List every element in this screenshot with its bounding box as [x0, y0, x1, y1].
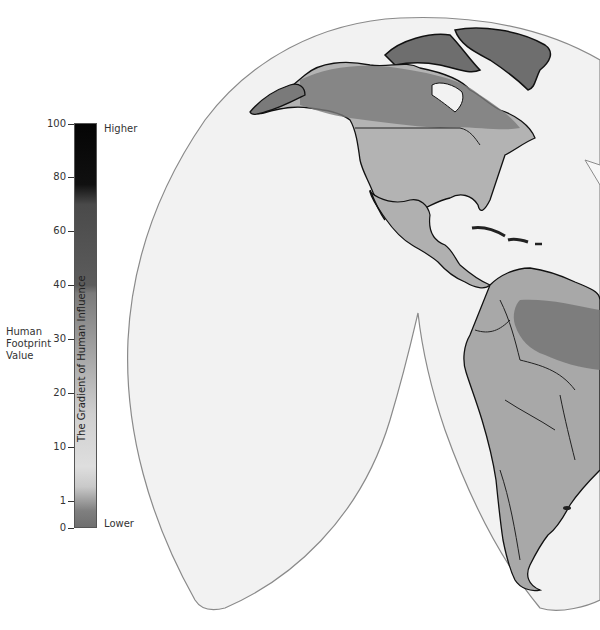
- tick-mark: [68, 231, 74, 232]
- colorbar-title-text: The Gradient of Human Influence: [76, 275, 87, 442]
- falkland-islands: [563, 506, 571, 510]
- legend-top-label: Higher: [104, 123, 137, 135]
- tick-label-10: 10: [38, 441, 66, 452]
- tick-label-100: 100: [38, 118, 66, 129]
- tick-mark: [68, 339, 74, 340]
- tick-label-1: 1: [38, 495, 66, 506]
- tick-label-0: 0: [38, 522, 66, 533]
- axis-title-line: Value: [6, 350, 51, 362]
- legend-bottom-label: Lower: [104, 518, 134, 530]
- tick-label-40: 40: [38, 279, 66, 290]
- tick-label-60: 60: [38, 225, 66, 236]
- tick-mark: [68, 124, 74, 125]
- tick-mark: [68, 447, 74, 448]
- tick-label-30: 30: [38, 333, 66, 344]
- tick-mark: [68, 177, 74, 178]
- tick-mark: [68, 501, 74, 502]
- tick-mark: [68, 528, 74, 529]
- tick-mark: [68, 285, 74, 286]
- legend-axis-title: Human Footprint Value: [6, 326, 51, 362]
- tick-mark: [68, 393, 74, 394]
- tick-label-20: 20: [38, 387, 66, 398]
- tick-label-80: 80: [38, 171, 66, 182]
